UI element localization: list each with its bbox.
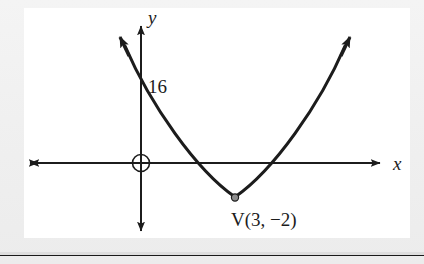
bottom-divider: [0, 255, 424, 256]
parabola-right-arrowhead: [341, 37, 350, 56]
y-intercept-label: 16: [148, 77, 167, 96]
y-axis-label: y: [148, 8, 156, 27]
figure-page: 16 x y V(3, −2): [0, 0, 424, 264]
vertex-point-marker: [231, 194, 238, 201]
parabola-curve: [125, 46, 345, 197]
vertex-label: V(3, −2): [231, 210, 297, 229]
x-axis-label: x: [393, 154, 401, 173]
parabola-left-arrowhead: [120, 37, 129, 56]
parabola-graph: [0, 0, 424, 264]
